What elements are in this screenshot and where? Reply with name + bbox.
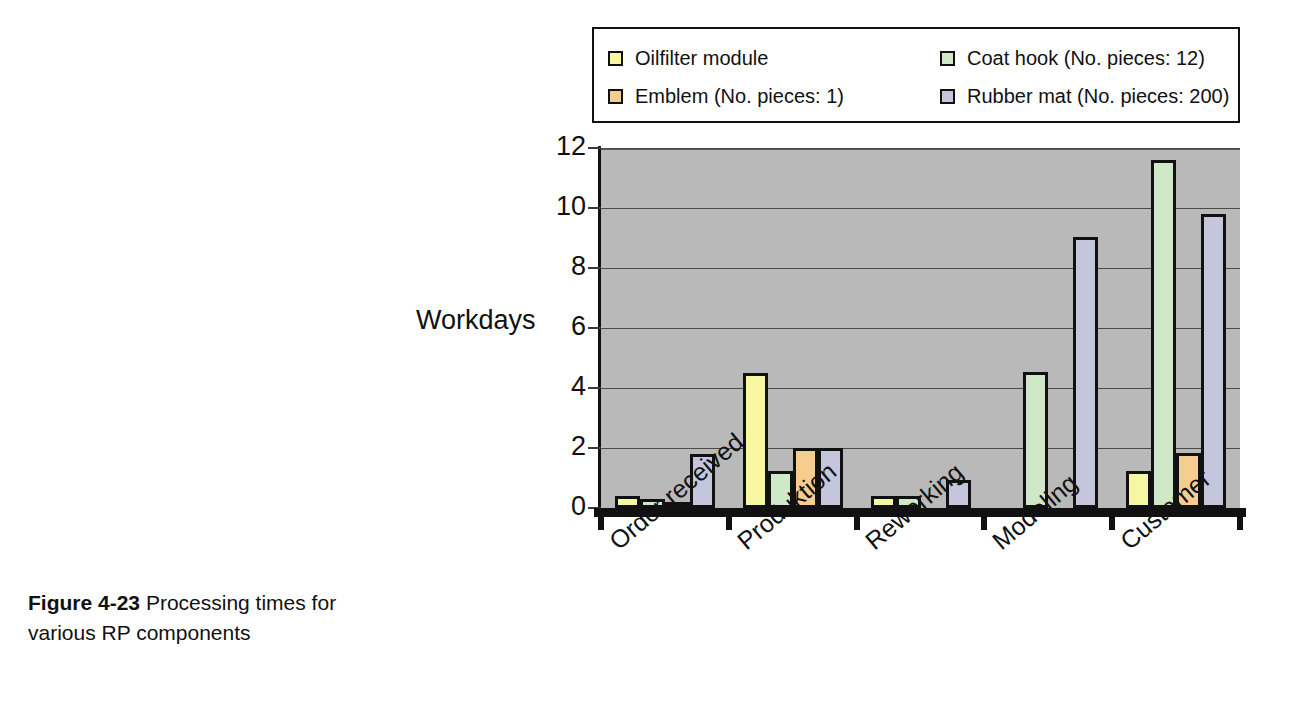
gridline-6 (601, 328, 1240, 329)
legend-swatch-icon-emblem (608, 89, 623, 104)
y-tick-10 (588, 207, 601, 209)
legend-item-oilfilter-module: Oilfilter module (608, 48, 916, 68)
gridline-12 (601, 148, 1240, 149)
legend-label-oilfilter-module: Oilfilter module (635, 48, 768, 68)
bar-customer-coat-hook-no-pieces-12- (1151, 160, 1176, 508)
legend-swatch-icon-coat-hook (940, 51, 955, 66)
legend-swatch-icon-rubber-mat (940, 89, 955, 104)
y-tick-2 (588, 447, 601, 449)
y-tick-label-10: 10 (540, 193, 586, 220)
y-tick-label-4: 4 (540, 373, 586, 400)
legend-label-emblem: Emblem (No. pieces: 1) (635, 86, 844, 106)
gridline-10 (601, 208, 1240, 209)
y-tick-12 (588, 147, 601, 149)
x-tick-3 (981, 508, 987, 530)
legend-label-coat-hook: Coat hook (No. pieces: 12) (967, 48, 1205, 68)
legend-item-rubber-mat: Rubber mat (No. pieces: 200) (916, 86, 1224, 106)
x-tick-1 (726, 508, 732, 530)
y-tick-label-0: 0 (540, 493, 586, 520)
legend-label-rubber-mat: Rubber mat (No. pieces: 200) (967, 86, 1229, 106)
y-tick-label-12: 12 (540, 133, 586, 160)
y-axis-title: Workdays (416, 305, 536, 335)
y-tick-4 (588, 387, 601, 389)
x-tick-end (1237, 508, 1243, 530)
bar-modeling-rubber-mat-no-pieces-200- (1073, 237, 1098, 509)
bar-produktion-oilfilter-module (743, 373, 768, 508)
bar-customer-rubber-mat-no-pieces-200- (1201, 214, 1226, 508)
gridline-8 (601, 268, 1240, 269)
bar-customer-oilfilter-module (1126, 471, 1151, 509)
figure-number: Figure 4-23 (28, 591, 140, 614)
legend-item-coat-hook: Coat hook (No. pieces: 12) (916, 48, 1224, 68)
y-tick-label-6: 6 (540, 313, 586, 340)
x-tick-2 (854, 508, 860, 530)
gridline-4 (601, 388, 1240, 389)
chart-legend: Oilfilter module Coat hook (No. pieces: … (592, 27, 1240, 123)
legend-swatch-icon-oilfilter-module (608, 51, 623, 66)
legend-row-2: Emblem (No. pieces: 1) Rubber mat (No. p… (608, 77, 1224, 115)
y-tick-6 (588, 327, 601, 329)
y-tick-label-8: 8 (540, 253, 586, 280)
legend-row-1: Oilfilter module Coat hook (No. pieces: … (608, 39, 1224, 77)
figure-caption: Figure 4-23 Processing times for various… (28, 588, 358, 648)
legend-item-emblem: Emblem (No. pieces: 1) (608, 86, 916, 106)
y-tick-label-2: 2 (540, 433, 586, 460)
x-tick-0 (598, 508, 604, 530)
y-tick-8 (588, 267, 601, 269)
gridline-2 (601, 448, 1240, 449)
x-tick-4 (1109, 508, 1115, 530)
